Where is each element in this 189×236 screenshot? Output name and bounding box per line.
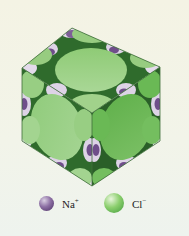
legend-item-na: Na+ — [39, 196, 79, 211]
legend-label-na: Na+ — [62, 197, 79, 210]
legend-item-cl: Cl− — [104, 193, 146, 213]
cl-ion-sphere-icon — [104, 193, 124, 213]
legend-label-cl: Cl− — [132, 197, 146, 210]
legend: Na+ Cl− — [0, 193, 189, 215]
na-ion-sphere-icon — [39, 196, 54, 211]
